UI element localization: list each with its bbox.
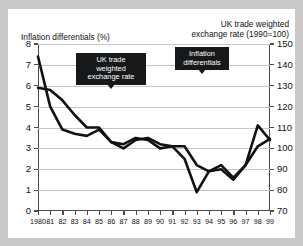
- x-axis-tick: [50, 211, 51, 215]
- x-axis-tick-label: 92: [181, 218, 189, 225]
- right-axis-tick: [270, 190, 274, 191]
- callout-tail-icon: [198, 69, 206, 74]
- right-axis-tick-label: 110: [277, 123, 292, 133]
- right-axis-tick-label: 150: [277, 39, 293, 49]
- left-axis-tick-label: 2: [26, 164, 31, 174]
- left-axis-tick-label: 5: [26, 102, 31, 112]
- right-axis-tick-label: 70: [277, 206, 288, 216]
- x-axis-tick-label: 97: [242, 218, 250, 225]
- series-lines: [38, 44, 270, 211]
- callout-inflation: Inflation differentials: [175, 47, 229, 70]
- right-axis-tick: [270, 106, 274, 107]
- x-axis-tick-label: 84: [83, 218, 91, 225]
- line-inflation-differentials: [38, 57, 270, 178]
- left-axis-tick-label: 0: [26, 206, 31, 216]
- right-axis-caption: UK trade weighted exchange rate (1990=10…: [191, 19, 289, 39]
- left-axis-tick-label: 3: [26, 143, 31, 153]
- x-axis-tick: [172, 211, 173, 215]
- right-axis-tick: [270, 85, 274, 86]
- x-axis-tick-label: 90: [156, 218, 164, 225]
- x-axis-tick: [136, 211, 137, 215]
- callout-exchange-rate: UK trade weighted exchange rate: [76, 53, 146, 85]
- x-axis-tick: [258, 211, 259, 215]
- x-axis-tick-label: 98: [254, 218, 262, 225]
- right-axis-tick: [270, 43, 274, 44]
- x-axis-tick-label: 83: [71, 218, 79, 225]
- right-axis-tick-label: 90: [277, 164, 288, 174]
- right-axis-tick: [270, 64, 274, 65]
- x-axis-tick: [185, 211, 186, 215]
- x-axis-tick: [111, 211, 112, 215]
- x-axis-tick-label: 94: [205, 218, 213, 225]
- x-axis-tick-label: 91: [168, 218, 176, 225]
- x-axis-tick-label: 87: [119, 218, 127, 225]
- x-axis-tick: [148, 211, 149, 215]
- x-axis-tick: [123, 211, 124, 215]
- x-axis-tick-label: 81: [46, 218, 54, 225]
- x-axis-tick: [38, 211, 39, 215]
- right-axis-caption-line2: exchange rate (1990=100): [191, 29, 289, 39]
- right-axis-tick: [270, 148, 274, 149]
- x-axis-tick-label: 95: [217, 218, 225, 225]
- left-axis-tick-label: 8: [26, 39, 31, 49]
- left-axis-caption: Inflation differentials (%): [21, 32, 110, 42]
- x-axis-tick: [160, 211, 161, 215]
- chart-figure: Inflation differentials (%) UK trade wei…: [8, 9, 295, 238]
- left-axis-tick-label: 4: [26, 123, 31, 133]
- right-axis-tick-label: 120: [277, 102, 293, 112]
- x-axis-tick: [75, 211, 76, 215]
- x-axis-tick-label: 99: [266, 218, 274, 225]
- x-axis-tick: [246, 211, 247, 215]
- right-axis-caption-line1: UK trade weighted: [191, 19, 289, 29]
- x-axis-tick-label: 85: [95, 218, 103, 225]
- x-axis-tick-label: 88: [132, 218, 140, 225]
- x-axis-tick: [87, 211, 88, 215]
- left-axis-tick-label: 7: [26, 60, 31, 70]
- x-axis-tick-label: 96: [229, 218, 237, 225]
- x-axis-tick: [197, 211, 198, 215]
- right-axis-tick-label: 140: [277, 60, 293, 70]
- x-axis-tick-label: 86: [107, 218, 115, 225]
- x-axis-tick: [233, 211, 234, 215]
- left-axis-tick-label: 6: [26, 81, 31, 91]
- x-axis-tick-label: 82: [58, 218, 66, 225]
- right-axis-tick-label: 100: [277, 143, 293, 153]
- right-axis-tick: [270, 127, 274, 128]
- x-axis-tick-label: 1980: [30, 218, 46, 225]
- right-axis-tick-label: 80: [277, 185, 288, 195]
- x-axis-tick: [270, 211, 271, 215]
- callout-tail-icon: [107, 84, 115, 89]
- left-axis-tick-label: 1: [26, 185, 31, 195]
- x-axis-tick-label: 93: [193, 218, 201, 225]
- right-axis-tick: [270, 169, 274, 170]
- right-axis-tick-label: 130: [277, 81, 293, 91]
- x-axis-tick: [62, 211, 63, 215]
- x-axis-tick: [99, 211, 100, 215]
- x-axis-tick: [209, 211, 210, 215]
- x-axis-tick-label: 89: [144, 218, 152, 225]
- plot-area: 012345678 708090100110120130140150 19808…: [38, 44, 270, 211]
- x-axis-tick: [221, 211, 222, 215]
